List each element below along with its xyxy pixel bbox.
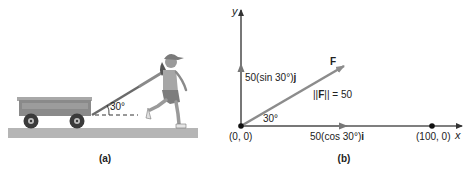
y-axis-label: y — [231, 5, 239, 17]
panel-b-vector-diagram: y x F ||F|| = 50 50(sin 30°)j 30° (0, 0)… — [229, 5, 462, 164]
vertical-component-label: 50(sin 30°)j — [245, 72, 296, 83]
ground — [8, 128, 198, 138]
wagon-wheel-front — [24, 114, 39, 129]
horizontal-component-label: 50(cos 30°)i — [310, 131, 364, 142]
point-100-0-label: (100, 0) — [416, 131, 450, 142]
angle-label-b: 30° — [263, 113, 278, 124]
point-100-0 — [429, 123, 435, 129]
girl-figure — [140, 54, 186, 128]
angle-arc — [107, 105, 109, 115]
vector-label-F: F — [330, 56, 336, 67]
figure-canvas: 30° (a) — [0, 0, 472, 176]
caption-a: (a) — [99, 153, 111, 164]
panel-a-illustration: 30° (a) — [8, 54, 198, 164]
angle-label-a: 30° — [110, 101, 125, 112]
x-axis-label: x — [454, 129, 461, 141]
magnitude-label: ||F|| = 50 — [313, 89, 352, 100]
caption-b: (b) — [338, 153, 351, 164]
origin-label: (0, 0) — [229, 131, 252, 142]
wagon-wheel-rear — [70, 114, 85, 129]
origin-point — [238, 123, 244, 129]
